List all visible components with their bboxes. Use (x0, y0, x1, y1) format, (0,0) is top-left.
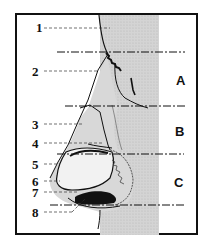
label-2: 2 (32, 65, 39, 78)
label-7: 7 (32, 186, 39, 199)
label-3: 3 (32, 118, 39, 131)
label-4: 4 (32, 137, 39, 150)
label-5: 5 (32, 158, 39, 171)
label-1: 1 (36, 21, 43, 34)
zone-label-a: A (176, 74, 185, 87)
zone-label-c: C (174, 176, 183, 189)
zone-label-b: B (175, 125, 184, 138)
label-8: 8 (32, 206, 39, 219)
